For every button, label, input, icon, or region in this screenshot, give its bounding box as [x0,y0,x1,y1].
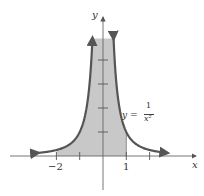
annotation-denominator: x² [144,114,152,123]
annotation-lhs: y = [122,110,138,120]
x-axis-label: x [192,159,198,170]
plot-area [0,0,204,196]
x-tick-label-neg2: −2 [48,161,63,172]
x-tick-label-1: 1 [123,161,129,172]
y-axis-label: y [92,9,98,20]
function-annotation: y = 1 x² [122,103,162,127]
annotation-numerator: 1 [146,101,151,110]
